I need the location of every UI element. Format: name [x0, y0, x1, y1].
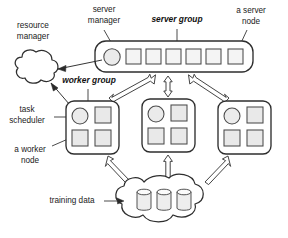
- cylinder-top: [157, 189, 171, 195]
- label-a-server-node-line2: node: [242, 17, 261, 26]
- server-node[interactable]: [126, 49, 141, 64]
- label-a-worker-node-line1: a worker: [14, 145, 46, 154]
- task-scheduler-circle[interactable]: [148, 106, 164, 122]
- label-worker-group: worker group: [62, 75, 116, 85]
- label-resource-manager-line2: manager: [17, 32, 50, 41]
- block-arrow-data-to-worker3: [205, 156, 231, 185]
- worker-node[interactable]: [224, 130, 240, 146]
- database-cylinder[interactable]: [157, 189, 171, 210]
- worker-node[interactable]: [171, 128, 187, 144]
- server-group[interactable]: [95, 41, 253, 72]
- task-scheduler-circle[interactable]: [72, 108, 88, 124]
- server-node[interactable]: [228, 49, 243, 64]
- database-cylinder[interactable]: [177, 189, 191, 210]
- label-server-group: server group: [151, 14, 202, 24]
- server-node[interactable]: [186, 49, 201, 64]
- worker-node[interactable]: [247, 107, 263, 123]
- cylinder-top: [137, 189, 151, 195]
- database-cylinder[interactable]: [137, 189, 151, 210]
- arrowhead-server-to-resource: [58, 65, 66, 71]
- task-scheduler-circle[interactable]: [224, 108, 240, 124]
- cylinder-top: [177, 189, 191, 195]
- worker-node[interactable]: [95, 130, 111, 146]
- label-task-scheduler-line2: scheduler: [9, 116, 45, 125]
- label-server-manager-line2: manager: [88, 16, 121, 25]
- label-a-worker-node-line2: node: [21, 156, 40, 165]
- diagram-canvas: resource manager server manager server g…: [0, 0, 288, 238]
- label-a-server-node-line1: a server: [236, 6, 266, 15]
- server-node[interactable]: [166, 49, 181, 64]
- block-arrow-worker2-server: [164, 76, 172, 97]
- worker-group-1[interactable]: [66, 101, 119, 154]
- worker-node[interactable]: [72, 130, 88, 146]
- server-node[interactable]: [146, 49, 161, 64]
- worker-group-3[interactable]: [218, 101, 271, 154]
- worker-node[interactable]: [148, 128, 164, 144]
- worker-node[interactable]: [171, 105, 187, 121]
- label-server-manager-line1: server: [93, 5, 116, 14]
- server-manager-circle[interactable]: [104, 49, 120, 65]
- training-data-cloud[interactable]: [116, 174, 203, 222]
- architecture-diagram: resource manager server manager server g…: [0, 0, 288, 238]
- label-task-scheduler-line1: task: [19, 105, 35, 114]
- server-node[interactable]: [206, 49, 221, 64]
- resource-manager-cloud[interactable]: [15, 50, 58, 83]
- block-arrow-worker3-server: [189, 74, 230, 105]
- worker-node[interactable]: [95, 107, 111, 123]
- label-resource-manager-line1: resource: [17, 21, 49, 30]
- worker-group-2[interactable]: [142, 99, 195, 152]
- label-training-data: training data: [49, 196, 95, 205]
- worker-node[interactable]: [247, 130, 263, 146]
- resource-manager-shape[interactable]: [15, 50, 58, 83]
